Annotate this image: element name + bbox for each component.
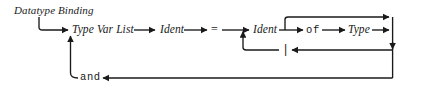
node-alternation-bar: | — [282, 44, 289, 56]
and-loop-left-elbow-riser — [71, 36, 79, 78]
datatype-binding-syntax-diagram: Datatype Binding Type Var List Ident = I… — [0, 0, 422, 91]
entry-elbow-path — [39, 17, 68, 30]
node-type-var-list: Type Var List — [72, 24, 134, 36]
of-bypass-loop-path — [285, 17, 389, 30]
bar-loop-left-elbow — [243, 44, 279, 50]
node-equals-operator: = — [211, 23, 218, 35]
node-and-keyword: and — [80, 72, 101, 83]
node-ident-constructor: Ident — [253, 24, 277, 36]
node-of-keyword: of — [306, 25, 320, 36]
node-type: Type — [348, 24, 370, 36]
diagram-title: Datatype Binding — [14, 5, 94, 16]
node-ident-name: Ident — [160, 24, 184, 36]
